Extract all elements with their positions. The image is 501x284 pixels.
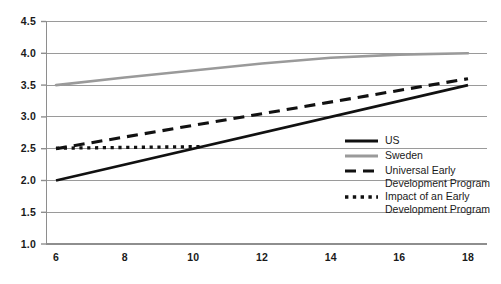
- line-chart: 4.5 4.0 3.5 3.0 2.5 2.0 1.5 1.0 6 8 10 1…: [0, 0, 501, 284]
- y-tick-label: 4.0: [6, 47, 36, 59]
- legend-item-universal-early-development-program: Universal Early Development Program: [345, 164, 495, 189]
- legend-item-impact-of-an-early-development-program: Impact of an Early Development Program: [345, 190, 495, 215]
- legend-item-us: US: [345, 134, 495, 148]
- x-tick-label: 10: [173, 251, 213, 263]
- legend-item-sweden: Sweden: [345, 149, 495, 163]
- x-tick-label: 12: [242, 251, 282, 263]
- legend-label: US: [385, 134, 400, 147]
- x-tick-label: 8: [105, 251, 145, 263]
- legend-label-line2: Development Program: [385, 177, 490, 189]
- series-line-impact-of-an-early-development-program: [56, 147, 203, 149]
- y-tick-marks: [41, 22, 46, 245]
- legend-swatch-solid-gray-icon: [345, 149, 378, 163]
- y-tick-label: 3.0: [6, 110, 36, 122]
- y-tick-label: 2.5: [6, 142, 36, 154]
- legend-swatch-solid-black-icon: [345, 134, 378, 148]
- legend-swatch-dotted-black-icon: [345, 190, 378, 204]
- x-tick-label: 6: [36, 251, 76, 263]
- legend-label-line2: Development Program: [385, 203, 490, 215]
- legend-swatch-dashed-black-icon: [345, 164, 378, 178]
- series-line-sweden: [56, 53, 468, 85]
- legend-label: Impact of an Early: [385, 190, 470, 202]
- chart-legend: US Sweden Universal Early Development Pr…: [345, 134, 495, 216]
- y-tick-label: 4.5: [6, 15, 36, 27]
- x-tick-label: 18: [448, 251, 488, 263]
- legend-label: Sweden: [385, 149, 423, 162]
- y-tick-label: 2.0: [6, 174, 36, 186]
- x-tick-label: 16: [379, 251, 419, 263]
- y-tick-label: 1.0: [6, 238, 36, 250]
- x-tick-label: 14: [311, 251, 351, 263]
- y-tick-label: 1.5: [6, 206, 36, 218]
- y-tick-label: 3.5: [6, 79, 36, 91]
- legend-label: Universal Early: [385, 164, 456, 176]
